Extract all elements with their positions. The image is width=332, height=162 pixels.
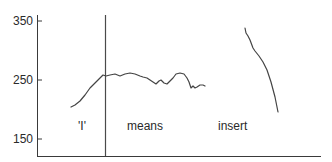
pitch-contour-curve-2 <box>245 28 278 112</box>
y-tick-label-250: 250 <box>13 73 33 87</box>
word-label-i: 'I' <box>78 119 86 133</box>
y-tick-label-150: 150 <box>13 132 33 146</box>
pitch-contour-curve-1 <box>71 73 205 107</box>
pitch-contour-chart: 350 250 150 'I' means insert <box>0 0 332 162</box>
word-label-means: means <box>127 119 163 133</box>
y-tick-label-350: 350 <box>13 14 33 28</box>
word-label-insert: insert <box>218 119 248 133</box>
